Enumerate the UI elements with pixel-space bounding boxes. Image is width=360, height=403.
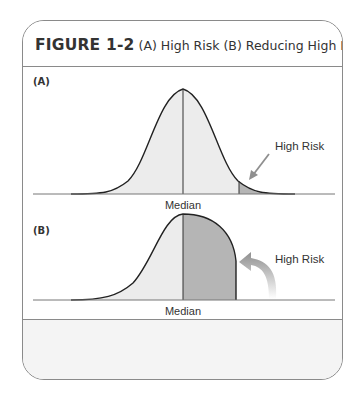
panel-b-x-label: Median bbox=[153, 305, 213, 317]
figure-footer bbox=[23, 319, 342, 380]
panel-a-x-label: Median bbox=[153, 199, 213, 211]
panel-a-high-risk-region bbox=[239, 182, 273, 194]
curved-arrow-icon bbox=[239, 252, 276, 299]
panel-b-annotation: High Risk bbox=[275, 253, 324, 265]
panel-b-label: (B) bbox=[33, 225, 50, 236]
figure-card: FIGURE 1-2(A) High Risk (B) Reducing Hig… bbox=[22, 20, 343, 380]
arrow-icon bbox=[253, 154, 269, 175]
panel-a-chart bbox=[23, 21, 343, 321]
panel-b-high-risk-region bbox=[183, 214, 236, 300]
panel-a-annotation: High Risk bbox=[275, 140, 324, 152]
